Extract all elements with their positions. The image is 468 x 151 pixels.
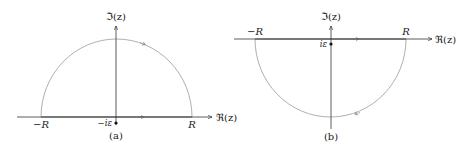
r-label: R	[187, 119, 196, 130]
caption-a: (a)	[109, 130, 123, 141]
figure-a: ℑ(z) ℜ(z) −R R −iε (a)	[17, 11, 237, 141]
minus-r-label: −R	[33, 119, 49, 130]
imag-axis-label: ℑ(z)	[106, 11, 126, 22]
r-label: R	[401, 26, 410, 37]
pole-label: −iε	[98, 118, 113, 128]
real-axis-label: ℜ(z)	[216, 112, 237, 123]
contour-arc-lower	[255, 39, 406, 117]
pole-marker	[114, 121, 117, 124]
pole-marker	[329, 42, 332, 45]
contour-arc-upper	[41, 39, 192, 117]
imag-axis-label: ℑ(z)	[321, 11, 341, 22]
pole-label: iε	[320, 39, 328, 49]
minus-r-label: −R	[247, 26, 263, 37]
contour-diagrams: ℑ(z) ℜ(z) −R R −iε (a) ℑ(z) ℜ(z) −R R iε…	[0, 0, 468, 151]
real-axis-label: ℜ(z)	[435, 34, 456, 45]
caption-b: (b)	[324, 131, 338, 142]
figure-b: ℑ(z) ℜ(z) −R R iε (b)	[234, 11, 456, 142]
